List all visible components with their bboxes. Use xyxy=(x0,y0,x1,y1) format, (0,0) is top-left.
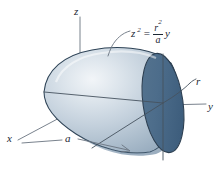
paraboloid-figure: z y x r a z2 = r2 a y xyxy=(0,0,222,174)
equation-numerator: r2 xyxy=(153,22,162,33)
equation-numerator-exponent: 2 xyxy=(158,18,162,26)
dimension-a-label: a xyxy=(65,133,71,144)
equation-denominator: a xyxy=(155,35,162,45)
equation-rhs-variable: y xyxy=(165,28,170,39)
figure-canvas xyxy=(0,0,222,174)
equation-fraction: r2 a xyxy=(153,22,163,45)
surface-equation: z2 = r2 a y xyxy=(131,22,170,45)
x-axis-label: x xyxy=(7,133,12,144)
y-axis-label: y xyxy=(208,101,213,112)
radius-label: r xyxy=(196,76,200,87)
z-axis-label: z xyxy=(74,6,78,17)
equation-operator: = xyxy=(144,28,150,39)
equation-lhs-base: z xyxy=(131,28,135,39)
equation-lhs-exponent: 2 xyxy=(137,27,141,34)
